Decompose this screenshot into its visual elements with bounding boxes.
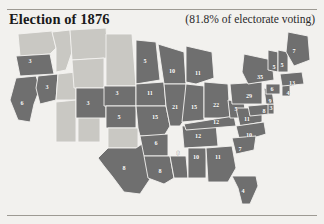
electoral-votes-il: 21 xyxy=(172,103,178,110)
state-mt xyxy=(70,28,108,60)
electoral-votes-in: 15 xyxy=(191,103,197,110)
electoral-votes-ga: 11 xyxy=(215,153,221,160)
electoral-votes-ky: 12 xyxy=(213,118,219,125)
electoral-votes-nc: 10 xyxy=(246,131,252,138)
state-wi xyxy=(158,44,186,84)
state-or xyxy=(16,54,54,76)
electoral-votes-tn: 12 xyxy=(195,132,201,139)
electoral-votes-al: 10 xyxy=(193,153,199,160)
state-dt xyxy=(106,34,136,86)
state-fl xyxy=(232,176,258,204)
state-ne xyxy=(104,86,136,106)
state-ga xyxy=(206,146,236,182)
state-mo xyxy=(136,106,170,136)
state-mn xyxy=(136,40,160,84)
electoral-votes-wi: 10 xyxy=(169,67,175,74)
electoral-votes-ar: 6 xyxy=(154,139,157,146)
state-me xyxy=(286,32,310,66)
state-az xyxy=(56,100,76,142)
electoral-votes-mi: 11 xyxy=(195,69,201,76)
electoral-votes-ia: 11 xyxy=(147,89,153,96)
electoral-votes-vt: 5 xyxy=(272,63,275,70)
electoral-votes-ne: 3 xyxy=(115,89,118,96)
electoral-votes-ks: 5 xyxy=(117,113,120,120)
state-it xyxy=(108,128,138,148)
us-map-svg: 3633358511156810218111512102212114511107… xyxy=(0,26,324,212)
state-wa xyxy=(18,31,56,56)
electoral-votes-mn: 5 xyxy=(143,57,146,64)
electoral-votes-mo: 15 xyxy=(152,113,158,120)
electoral-votes-va: 11 xyxy=(244,115,250,122)
footer-divider-rule xyxy=(7,215,317,216)
electoral-votes-ms: 8 xyxy=(176,149,179,156)
state-shapes-group xyxy=(10,28,310,204)
electoral-votes-co: 3 xyxy=(86,99,89,106)
electoral-votes-ny: 35 xyxy=(257,73,263,80)
electoral-votes-tx: 8 xyxy=(122,164,125,171)
state-id xyxy=(52,30,72,72)
electoral-votes-ct: 6 xyxy=(270,85,273,92)
electoral-map: 3633358511156810218111512102212114511107… xyxy=(0,26,324,212)
state-ca xyxy=(10,76,40,122)
state-sc xyxy=(232,136,256,154)
voter-turnout-note: (81.8% of electorate voting) xyxy=(185,13,315,25)
electoral-votes-sc: 7 xyxy=(238,145,241,152)
header-divider-rule xyxy=(7,9,317,10)
electoral-votes-ca: 6 xyxy=(20,99,23,106)
electoral-votes-me: 7 xyxy=(292,47,295,54)
state-wy xyxy=(72,58,104,88)
electoral-votes-or: 3 xyxy=(28,57,31,64)
electoral-votes-nj: 9 xyxy=(268,97,271,104)
electoral-votes-ri: 4 xyxy=(286,89,289,96)
electoral-votes-la: 8 xyxy=(158,167,161,174)
state-oh xyxy=(204,82,230,118)
electoral-votes-pa: 29 xyxy=(246,92,252,99)
electoral-votes-fl: 4 xyxy=(241,187,244,194)
electoral-votes-nv: 3 xyxy=(45,83,48,90)
electoral-votes-wv: 5 xyxy=(234,105,237,112)
electoral-votes-md: 8 xyxy=(262,107,265,114)
electoral-votes-de: 3 xyxy=(269,104,272,111)
state-co xyxy=(76,88,106,118)
electoral-votes-nh: 5 xyxy=(280,61,283,68)
state-mi xyxy=(186,46,214,84)
electoral-votes-ma: 13 xyxy=(289,79,295,86)
state-ks xyxy=(106,106,136,128)
electoral-votes-oh: 22 xyxy=(213,101,219,108)
